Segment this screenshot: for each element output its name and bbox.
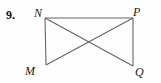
vertex-label-q: Q <box>135 66 144 78</box>
vertex-label-m: M <box>25 65 35 77</box>
geometry-figure: 9. N P M Q <box>0 0 161 83</box>
segment-NM <box>45 18 46 65</box>
vertex-label-p: P <box>133 6 140 18</box>
vertex-label-n: N <box>34 7 42 19</box>
